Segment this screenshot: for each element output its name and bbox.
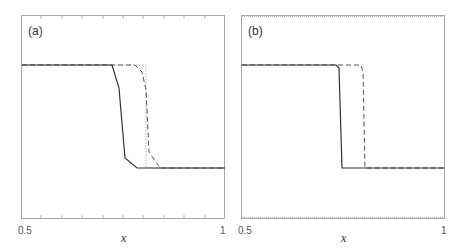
panel-a-frame: [22, 16, 225, 219]
panel-a-xmin-label: 0.5: [18, 225, 32, 236]
panel-a-xlabel: x: [120, 231, 127, 245]
panel-b-xmax-label: 1: [441, 225, 447, 236]
panel-b-xlabel: x: [340, 231, 347, 245]
panel-a-dashed-series: [22, 65, 225, 168]
panel-a: (a) 0.5 1 x: [18, 16, 226, 246]
panel-b-dashed-series: [242, 65, 444, 168]
panel-b-solid-series: [242, 65, 444, 168]
figure: (a) 0.5 1 x (b) 0.5 1 x: [0, 0, 463, 252]
panel-a-dotted-series: [22, 65, 225, 168]
panel-b-frame: [242, 16, 445, 219]
panel-b-xmin-label: 0.5: [238, 225, 252, 236]
panel-a-xmax-label: 1: [220, 225, 226, 236]
panel-a-solid-series: [22, 65, 225, 168]
panel-a-label: (a): [28, 24, 43, 38]
panel-b: (b) 0.5 1 x: [238, 16, 447, 246]
panel-a-ticks: [41, 16, 205, 218]
panel-b-label: (b): [248, 24, 263, 38]
